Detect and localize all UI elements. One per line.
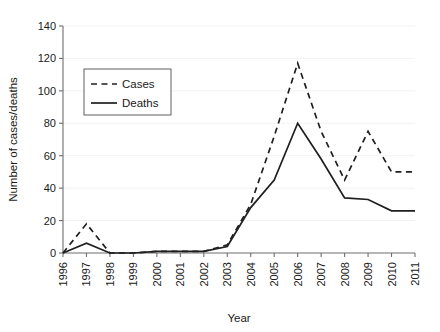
- line-chart: 020406080100120140 199619971998199920002…: [0, 0, 440, 332]
- legend-label-cases: Cases: [122, 78, 155, 90]
- chart-figure: 020406080100120140 199619971998199920002…: [0, 0, 440, 332]
- chart-legend: CasesDeaths: [84, 69, 171, 115]
- x-tick-label: 2008: [339, 262, 351, 286]
- x-tick-label: 2003: [221, 262, 233, 286]
- x-tick-label: 2007: [315, 262, 327, 286]
- y-tick-label: 0: [50, 247, 56, 259]
- x-tick-label: 1996: [57, 262, 69, 286]
- x-tick-label: 2010: [386, 262, 398, 286]
- x-tick-label: 1998: [104, 262, 116, 286]
- y-tick-label: 100: [38, 85, 56, 97]
- x-tick-label: 2001: [174, 262, 186, 286]
- y-axis-title: Number of cases/deaths: [7, 77, 19, 202]
- y-tick-label: 140: [38, 20, 56, 32]
- x-axis-ticks: 1996199719981999200020012002200320042005…: [57, 253, 421, 286]
- x-tick-label: 2005: [268, 262, 280, 286]
- y-tick-label: 120: [38, 52, 56, 64]
- x-tick-label: 1999: [127, 262, 139, 286]
- y-tick-label: 80: [44, 117, 56, 129]
- x-tick-label: 2000: [151, 262, 163, 286]
- x-tick-label: 2002: [198, 262, 210, 286]
- x-tick-label: 2006: [292, 262, 304, 286]
- y-tick-label: 60: [44, 150, 56, 162]
- y-tick-label: 40: [44, 182, 56, 194]
- x-tick-label: 1997: [80, 262, 92, 286]
- x-tick-label: 2004: [245, 262, 257, 286]
- x-axis-title: Year: [227, 312, 250, 324]
- gridlines: [63, 26, 415, 221]
- y-axis-ticks: 020406080100120140: [38, 20, 63, 259]
- x-tick-label: 2011: [409, 262, 421, 286]
- x-tick-label: 2009: [362, 262, 374, 286]
- y-tick-label: 20: [44, 215, 56, 227]
- legend-label-deaths: Deaths: [122, 97, 159, 109]
